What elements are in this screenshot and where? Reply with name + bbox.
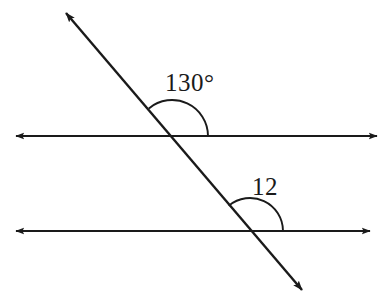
geometry-diagram: 130° 12 (0, 0, 388, 306)
transversal-line (66, 13, 302, 290)
upper-angle-arc (149, 100, 208, 136)
upper-angle-label: 130° (165, 70, 215, 95)
geometry-canvas (0, 0, 388, 306)
lower-angle-label: 12 (252, 174, 278, 199)
